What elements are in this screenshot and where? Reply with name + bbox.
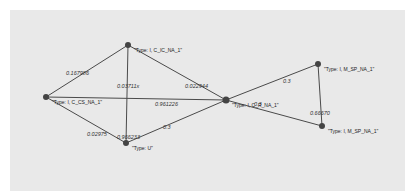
node-label: "Type: U" [132,145,153,151]
graph-edge [128,45,226,100]
edge-weight-label: 0.966233 [117,134,141,140]
edge-weight-label: 0.03711x [117,83,139,89]
node-label: "Type: I, C_R_NA_1" [232,102,279,108]
edge-weight-label: 0.022944 [185,83,208,89]
edge-weight-label: 0.3 [283,78,292,84]
network-graph: 0.1679860.03711x0.0229440.9612260.029750… [0,0,413,191]
graph-node[interactable] [223,97,230,104]
edge-weight-label: 0.66670 [310,110,331,116]
graph-node[interactable] [319,123,325,129]
graph-node[interactable] [315,61,321,67]
graph-edge [226,64,318,100]
node-label: "Type: I, C_CS_NA_1" [52,99,102,105]
edge-weight-label: 0.961226 [155,101,179,107]
node-label: "Type: I, M_SP_NA_1" [328,128,378,134]
edge-weight-label: 0.167986 [66,70,90,76]
graph-edge [318,64,322,126]
edge-weight-label: 0.3 [163,124,172,130]
graph-node[interactable] [43,94,49,100]
edge-weight-label: 0.02975 [87,131,108,137]
graph-edge [126,45,128,143]
node-label: "Type: I, C_IC_NA_1" [134,47,182,53]
graph-node[interactable] [125,42,131,48]
node-label: "Type: I, M_SP_NA_1" [324,66,374,72]
graph-node[interactable] [123,140,129,146]
